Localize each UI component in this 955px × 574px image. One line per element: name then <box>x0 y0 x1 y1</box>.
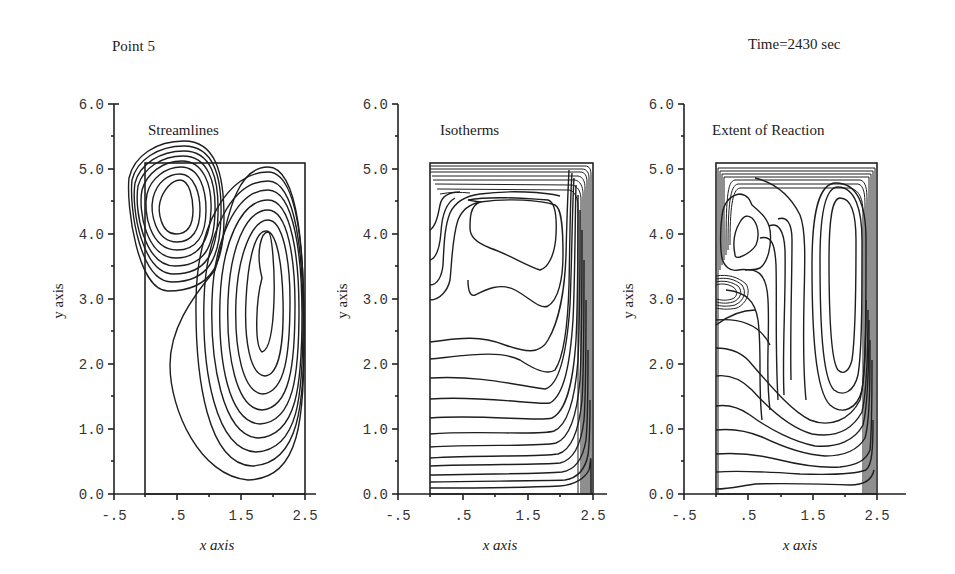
x-tick-label: .5 <box>740 508 757 524</box>
x-tick-label: 1.5 <box>515 508 540 524</box>
panel-extent-of-reaction: 6.0 5.0 4.0 3.0 2.0 1.0 0.0 -.5 .5 1.5 2… <box>620 97 906 553</box>
x-tick-label: -.5 <box>101 508 126 524</box>
y-tick-label: 5.0 <box>649 162 674 178</box>
y-tick-label: 5.0 <box>363 162 388 178</box>
y-tick-label: 6.0 <box>363 97 388 113</box>
panel-streamlines: 6.0 5.0 4.0 3.0 2.0 1.0 0.0 -.5 .5 1.5 2… <box>50 97 318 553</box>
x-tick-label: 2.5 <box>292 508 317 524</box>
y-axis-label: y axis <box>50 283 66 319</box>
contours-right-vortex <box>170 167 304 480</box>
y-tick-label: 3.0 <box>649 292 674 308</box>
y-tick-label: 2.0 <box>79 357 104 373</box>
y-tick-label: 4.0 <box>79 227 104 243</box>
panel-title: Isotherms <box>440 122 499 138</box>
x-tick-label: 1.5 <box>228 508 253 524</box>
x-tick-label: -.5 <box>671 508 696 524</box>
x-tick-label: 1.5 <box>800 508 825 524</box>
y-tick-label: 1.0 <box>649 422 674 438</box>
x-tick-label: .5 <box>169 508 186 524</box>
y-tick-label: 0.0 <box>649 487 674 503</box>
reaction-contours <box>716 168 875 494</box>
y-axis-label: y axis <box>620 283 636 319</box>
x-tick-label: .5 <box>455 508 472 524</box>
y-tick-label: 3.0 <box>79 292 104 308</box>
y-tick-label: 2.0 <box>363 357 388 373</box>
y-tick-label: 0.0 <box>79 487 104 503</box>
y-tick-label: 4.0 <box>649 227 674 243</box>
panel-isotherms: 6.0 5.0 4.0 3.0 2.0 1.0 0.0 -.5 .5 1.5 2… <box>334 97 607 553</box>
y-tick-label: 4.0 <box>363 227 388 243</box>
x-tick-label: -.5 <box>385 508 410 524</box>
y-axis-label: y axis <box>334 283 350 319</box>
isotherm-contours <box>430 166 591 494</box>
y-tick-label: 0.0 <box>363 487 388 503</box>
y-tick-label: 3.0 <box>363 292 388 308</box>
x-tick-label: 2.5 <box>864 508 889 524</box>
panel-title: Extent of Reaction <box>712 122 825 138</box>
x-axis-label: x axis <box>199 537 235 553</box>
x-axis-label: x axis <box>482 537 518 553</box>
panel-title: Streamlines <box>148 122 219 138</box>
y-tick-label: 2.0 <box>649 357 674 373</box>
x-axis-label: x axis <box>782 537 818 553</box>
y-tick-label: 1.0 <box>79 422 104 438</box>
y-tick-label: 5.0 <box>79 162 104 178</box>
figure-canvas: 6.0 5.0 4.0 3.0 2.0 1.0 0.0 -.5 .5 1.5 2… <box>0 0 955 574</box>
x-tick-label: 2.5 <box>580 508 605 524</box>
y-tick-label: 6.0 <box>79 97 104 113</box>
y-tick-label: 1.0 <box>363 422 388 438</box>
y-tick-label: 6.0 <box>649 97 674 113</box>
